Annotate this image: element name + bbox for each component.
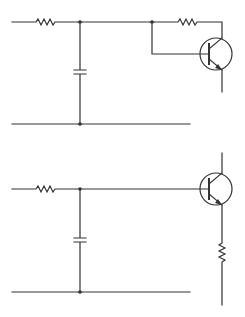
- circuit-diagram: [0, 0, 245, 317]
- bottom-shunt-capacitor: [74, 189, 86, 292]
- top-npn-transistor: [200, 38, 232, 92]
- bottom-circuit: [12, 153, 232, 305]
- top-shunt-capacitor: [74, 22, 86, 124]
- bottom-input-resistor: [12, 186, 209, 192]
- bottom-node-ground: [78, 290, 82, 294]
- bottom-npn-transistor: [200, 153, 232, 205]
- top-node-ground: [78, 122, 82, 126]
- top-circuit: [12, 19, 232, 126]
- top-collector-resistor: [152, 19, 222, 38]
- top-input-resistor: [12, 19, 152, 25]
- bottom-emitter-resistor: [219, 205, 225, 305]
